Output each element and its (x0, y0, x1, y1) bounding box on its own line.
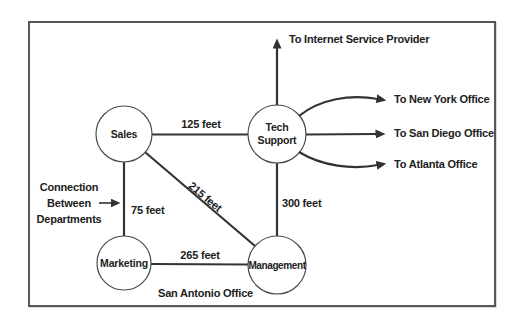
new-york-arrow (299, 97, 378, 116)
atlanta-arrow (299, 152, 378, 167)
node-label-sales: Sales (111, 128, 137, 141)
annotation-line-3: Departments (33, 211, 105, 227)
annotation-text: Connection Between Departments (33, 179, 105, 227)
node-label-tech-support: Tech Support (252, 121, 302, 147)
edge-label-sales-marketing: 75 feet (131, 204, 164, 217)
edge-label-tech-support-management: 300 feet (282, 197, 321, 210)
edge-label-marketing-management: 265 feet (180, 249, 219, 262)
external-label-atlanta-office: To Atlanta Office (394, 158, 477, 171)
external-label-new-york-office: To New York Office (394, 93, 489, 106)
network-diagram: Sales Tech Support Marketing Management … (0, 0, 518, 324)
annotation-line-2: Between (33, 195, 105, 211)
region-label: San Antonio Office (158, 287, 253, 300)
edge-label-sales-tech-support: 125 feet (181, 118, 220, 131)
edge-marketing-management (151, 264, 248, 265)
node-label-marketing: Marketing (100, 257, 148, 270)
external-label-san-diego-office: To San Diego Office (394, 127, 494, 140)
annotation-line-1: Connection (33, 179, 105, 195)
san-diego-arrow (306, 134, 377, 135)
external-label-internet-service-provider: To Internet Service Provider (289, 33, 429, 46)
node-label-management: Management (248, 259, 305, 272)
